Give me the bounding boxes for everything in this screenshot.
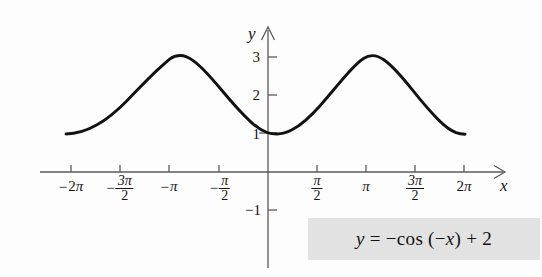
coefficient: 2 xyxy=(68,178,76,194)
numerator: π xyxy=(311,174,322,189)
y-axis-label: y xyxy=(248,24,256,44)
x-tick-label-2pi: 2π xyxy=(456,178,471,195)
fraction: π2 xyxy=(311,174,322,204)
equation-rhs: −cos (−x) + 2 xyxy=(386,228,492,249)
minus-sign: − xyxy=(210,180,218,197)
x-tick-label-minus-pi-over-2: −π2 xyxy=(210,174,230,204)
x-tick-label-pi-over-2: π2 xyxy=(311,174,322,204)
y-tick-label-2: 2 xyxy=(253,87,261,104)
numerator: π xyxy=(219,174,230,189)
x-tick-label-minus-2pi: −2π xyxy=(59,178,83,196)
equation-lhs: y xyxy=(356,228,365,249)
x-axis-label: x xyxy=(500,176,508,196)
y-tick-label-minus-1: −1 xyxy=(245,202,261,219)
function-curve xyxy=(66,56,465,135)
minus-sign: − xyxy=(106,180,114,197)
denominator: 2 xyxy=(219,189,230,203)
equation-text: y = −cos (−x) + 2 xyxy=(356,228,492,250)
fraction: 3π2 xyxy=(406,174,424,204)
function-graph-figure: y x 3 2 1 −1 −2π −3π2 −π −π2 π2 π 3π2 2π… xyxy=(0,0,542,277)
minus-sign: − xyxy=(161,179,169,196)
x-tick-label-minus-3pi-over-2: −3π2 xyxy=(106,174,133,204)
pi-symbol: π xyxy=(464,178,472,194)
numerator: 3π xyxy=(406,174,424,189)
numerator: 3π xyxy=(116,174,134,189)
x-tick-label-minus-pi: −π xyxy=(161,178,178,196)
coefficient: 2 xyxy=(456,178,464,194)
pi-symbol: π xyxy=(362,178,370,194)
x-tick-label-3pi-over-2: 3π2 xyxy=(406,174,424,204)
pi-symbol: π xyxy=(170,178,178,194)
denominator: 2 xyxy=(311,189,322,203)
pi-symbol: π xyxy=(76,178,84,194)
y-axis xyxy=(262,27,275,268)
equation-equals: = xyxy=(370,228,381,249)
fraction: 3π2 xyxy=(116,174,134,204)
equation-caption-box: y = −cos (−x) + 2 xyxy=(308,218,540,260)
denominator: 2 xyxy=(116,189,134,203)
x-tick-label-pi: π xyxy=(362,178,370,195)
fraction: π2 xyxy=(219,174,230,204)
denominator: 2 xyxy=(406,189,424,203)
minus-sign: − xyxy=(59,179,67,196)
y-tick-label-3: 3 xyxy=(253,49,261,66)
y-tick-label-1: 1 xyxy=(253,126,261,143)
